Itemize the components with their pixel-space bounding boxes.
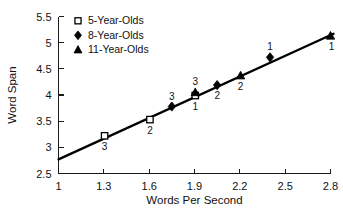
x-tick-label: 2.2 [232,180,247,192]
y-tick-label: 5.5 [36,11,51,23]
y-axis-title: Word Span [6,66,18,123]
y-tick-label: 2.5 [36,168,51,180]
scatter-plot-svg: 321321321 2.533.544.555.511.31.61.92.22.… [0,0,343,217]
data-point-count-label: 3 [169,91,175,102]
point-labels: 321321321 [102,41,335,152]
data-point-count-label: 2 [214,90,220,101]
marker-open-square [75,18,81,24]
legend-item-label: 8-Year-Olds [88,29,144,41]
x-tick-label: 1 [55,180,61,192]
data-point-count-label: 1 [192,101,198,112]
x-tick-label: 2.8 [323,180,338,192]
x-tick-label: 2.5 [278,180,293,192]
marker-filled-diamond [75,31,82,40]
data-point-count-label: 2 [147,125,153,136]
y-tick-label: 3 [45,141,51,153]
data-point-count-label: 3 [102,141,108,152]
data-point-count-label: 1 [329,41,335,52]
chart-figure: 321321321 2.533.544.555.511.31.61.92.22.… [0,0,343,217]
legend-item-label: 11-Year-Olds [88,43,149,55]
x-tick-label: 1.6 [142,180,157,192]
y-tick-label: 5 [45,37,51,49]
data-point-count-label: 1 [267,41,273,52]
x-axis-title: Words Per Second [146,194,242,206]
legend: 5-Year-Olds8-Year-Olds11-Year-Olds [74,14,149,55]
marker-open-square [101,133,107,139]
legend-item-label: 5-Year-Olds [88,14,144,26]
data-point-count-label: 2 [238,81,244,92]
y-tick-label: 4 [45,89,51,101]
x-tick-label: 1.9 [187,180,202,192]
marker-open-square [147,116,153,122]
data-point-count-label: 3 [192,76,198,87]
x-tick-label: 1.3 [96,180,111,192]
y-tick-label: 4.5 [36,63,51,75]
marker-filled-triangle [74,46,82,53]
axis-titles: Words Per SecondWord Span [6,66,243,206]
y-tick-label: 3.5 [36,115,51,127]
